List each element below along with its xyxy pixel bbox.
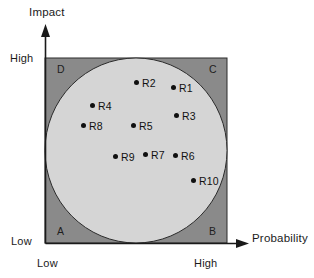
risk-point-label: R1 <box>179 83 193 94</box>
risk-point-dot <box>134 80 139 85</box>
risk-point-dot <box>90 103 95 108</box>
risk-point-dot <box>143 152 148 157</box>
risk-point-label: R5 <box>139 121 153 132</box>
risk-point-label: R6 <box>181 151 195 162</box>
risk-point-label: R10 <box>199 176 219 187</box>
risk-point-label: R9 <box>121 152 135 163</box>
risk-map-figure: Impact Probability High Low Low High D C… <box>0 0 314 278</box>
risk-point-dot <box>174 113 179 118</box>
risk-point-label: R3 <box>182 111 196 122</box>
risk-point-dot <box>131 123 136 128</box>
risk-point-dot <box>113 154 118 159</box>
risk-points-layer: R1R2R3R4R5R6R7R8R9R10 <box>0 0 314 278</box>
risk-point-label: R8 <box>89 121 103 132</box>
risk-point-dot <box>173 153 178 158</box>
risk-point-label: R2 <box>142 78 156 89</box>
risk-point-dot <box>191 178 196 183</box>
risk-point-label: R4 <box>98 101 112 112</box>
risk-point-dot <box>81 123 86 128</box>
risk-point-label: R7 <box>151 150 165 161</box>
risk-point-dot <box>171 85 176 90</box>
